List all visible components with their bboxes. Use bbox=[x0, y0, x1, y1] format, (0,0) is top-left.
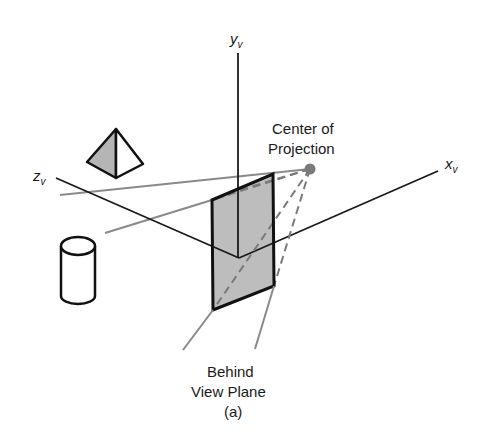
behind-line-right bbox=[255, 286, 274, 349]
projector-line-cylinder bbox=[105, 200, 212, 233]
center-of-projection-dot bbox=[305, 164, 316, 175]
cop-label-line1: Center of bbox=[272, 120, 335, 137]
projection-diagram: yv xv zv Center of Projection Behind Vie… bbox=[0, 0, 494, 447]
figure-caption: (a) bbox=[224, 403, 242, 420]
cop-label-line2: Projection bbox=[268, 140, 335, 157]
x-axis-label: xv bbox=[444, 155, 459, 175]
behind-label-line1: Behind bbox=[207, 363, 254, 380]
cylinder bbox=[61, 237, 95, 304]
pyramid bbox=[87, 129, 143, 178]
behind-label-line2: View Plane bbox=[191, 383, 266, 400]
z-axis-label: zv bbox=[32, 167, 47, 187]
y-axis-label: yv bbox=[229, 30, 244, 50]
behind-line-left bbox=[183, 310, 213, 350]
